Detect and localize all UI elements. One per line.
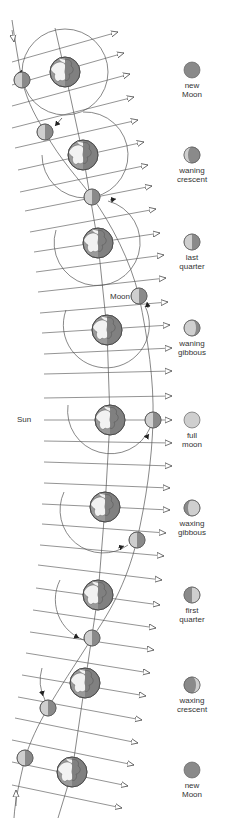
earth-icon <box>70 667 101 699</box>
earth-icon <box>83 227 114 259</box>
moon-icon <box>14 72 30 88</box>
earth-icon <box>90 491 121 523</box>
phase-icon-waxing-gibbous <box>184 500 200 516</box>
phase-icon-full <box>184 412 200 428</box>
phase-label-waxing-gibbous: waxing gibbous <box>167 519 217 537</box>
phase-label-new: new Moon <box>167 81 217 99</box>
moon-icon <box>129 532 145 548</box>
phase-icon-new <box>184 62 200 78</box>
moon-icon <box>145 412 161 428</box>
phase-label-new-2: new Moon <box>167 781 217 799</box>
earth-icon <box>83 579 114 611</box>
earth-positions <box>50 56 126 788</box>
moon-icon <box>37 124 53 140</box>
phase-icon-waning-crescent <box>184 147 200 163</box>
moon-icon <box>40 700 56 716</box>
moon-label: Moon <box>110 292 130 301</box>
phase-icon-last-quarter <box>184 234 200 250</box>
moon-positions <box>14 72 161 766</box>
phase-label-waning-gibbous: waning gibbous <box>167 339 217 357</box>
phase-label-waning-crescent: waning crescent <box>167 166 217 184</box>
phase-icon-waning-gibbous <box>184 320 200 336</box>
earth-icon <box>68 139 99 171</box>
earth-icon <box>57 756 88 788</box>
phase-icon-waxing-crescent <box>184 677 200 693</box>
moon-icon <box>84 189 100 205</box>
phase-label-full: full moon <box>167 431 217 449</box>
earth-icon <box>95 404 126 436</box>
earth-icon <box>50 56 81 88</box>
phase-icon-first-quarter <box>184 587 200 603</box>
phase-icon-new-2 <box>184 762 200 778</box>
moon-icon <box>17 750 33 766</box>
phase-label-first-quarter: first quarter <box>167 606 217 624</box>
moon-icon <box>131 288 147 304</box>
earth-icon <box>92 314 123 346</box>
moon-icon <box>84 630 100 646</box>
phase-label-waxing-crescent: waxing crescent <box>167 696 217 714</box>
phase-label-last-quarter: last quarter <box>167 253 217 271</box>
sun-label: Sun <box>17 415 31 424</box>
